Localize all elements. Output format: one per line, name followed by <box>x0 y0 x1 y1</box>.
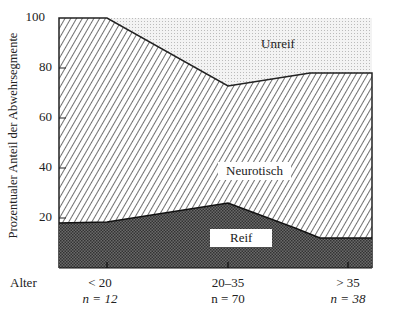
x-category-label: < 20 <box>65 275 135 291</box>
x-category-20-35: 20–35 n = 70 <box>193 275 263 307</box>
label-neurotisch: Neurotisch <box>218 162 291 180</box>
y-tick-80: 80 <box>22 59 52 75</box>
y-tick-40: 40 <box>22 159 52 175</box>
x-axis-label: Alter <box>10 275 37 291</box>
y-axis-label: Prozentualer Anteil der Abwehrsegmente <box>6 11 21 261</box>
x-category-lt20: < 20 n = 12 <box>65 275 135 307</box>
label-reif: Reif <box>210 229 272 247</box>
y-tick-60: 60 <box>22 109 52 125</box>
chart-canvas <box>0 0 407 318</box>
y-tick-100: 100 <box>15 9 45 25</box>
x-category-label: > 35 <box>313 275 383 291</box>
x-sample-size: n = 70 <box>193 291 263 307</box>
x-sample-size: n = 38 <box>313 291 383 307</box>
x-category-gt35: > 35 n = 38 <box>313 275 383 307</box>
x-category-label: 20–35 <box>193 275 263 291</box>
x-sample-size: n = 12 <box>65 291 135 307</box>
label-unreif: Unreif <box>253 35 303 53</box>
y-tick-20: 20 <box>22 209 52 225</box>
